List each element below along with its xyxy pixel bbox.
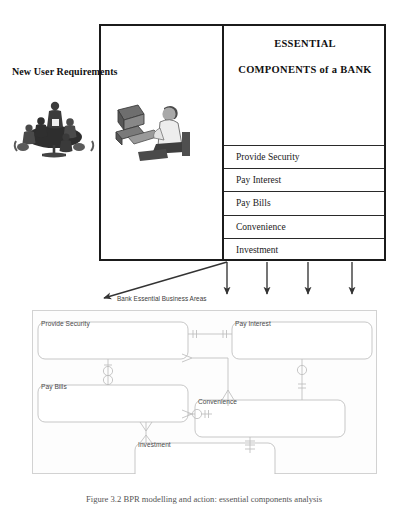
component-row: Provide Security [224, 145, 384, 168]
person-at-computer-clipart [108, 92, 196, 164]
er-label-pay-interest: Pay Interest [235, 320, 271, 327]
er-entity-convenience [195, 400, 345, 437]
diagonal-connector [104, 262, 227, 298]
er-diagram [32, 310, 377, 474]
new-user-requirements-label: New User Requirements [12, 66, 118, 77]
er-panel-title: Bank Essential Business Areas [117, 295, 207, 302]
er-label-pay-bills: Pay Bills [41, 383, 67, 390]
er-entity-pay-bills [38, 385, 188, 422]
heading-line-1: ESSENTIAL [274, 38, 336, 49]
component-label: Pay Interest [236, 175, 281, 185]
component-label: Investment [236, 245, 278, 255]
er-label-provide-security: Provide Security [41, 320, 90, 327]
component-row: Investment [224, 238, 384, 261]
er-label-convenience: Convenience [198, 398, 237, 405]
component-row: Convenience [224, 215, 384, 238]
component-row: Pay Bills [224, 191, 384, 214]
figure-caption: Figure 3.2 BPR modelling and action: ess… [0, 494, 408, 504]
component-label: Provide Security [236, 152, 300, 162]
er-label-investment: Investment [138, 441, 171, 448]
component-label: Convenience [236, 222, 286, 232]
er-entity-pay-interest [232, 322, 372, 359]
essential-components-heading: ESSENTIAL COMPONENTS of a BANK [226, 38, 384, 76]
component-label: Pay Bills [236, 198, 271, 208]
figure-canvas: ESSENTIAL COMPONENTS of a BANK Provide S… [0, 0, 408, 506]
er-entity-provide-security [38, 322, 188, 359]
essential-components-list: Provide Security Pay Interest Pay Bills … [224, 145, 384, 261]
component-row: Pay Interest [224, 168, 384, 191]
heading-line-2: COMPONENTS of a BANK [226, 64, 384, 76]
meeting-table-clipart [8, 97, 100, 159]
